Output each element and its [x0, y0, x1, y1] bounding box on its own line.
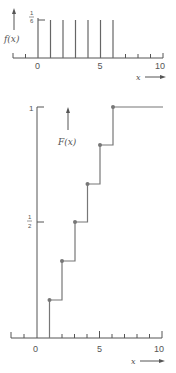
x-ticks — [11, 331, 162, 338]
ytick-half-num: 1 — [28, 214, 32, 220]
cdf-chart: 1 1 2 F(x) — [11, 104, 165, 366]
y-axis-label: f(x) — [3, 34, 20, 44]
xtick-label-0: 0 — [35, 61, 40, 71]
xtick-label-5: 5 — [98, 61, 103, 71]
ytick-label-1: 1 — [29, 104, 34, 113]
ytick-den: 6 — [30, 18, 34, 24]
xtick-label-10: 10 — [155, 61, 165, 71]
x-axis-label: x — [131, 357, 136, 366]
figure: f(x) 1 6 0 5 10 x — [0, 0, 176, 373]
y-axis-label: F(x) — [57, 137, 77, 147]
x-axis-label: x — [136, 73, 141, 82]
ytick-num: 1 — [30, 10, 34, 16]
pmf-chart: f(x) 1 6 0 5 10 x — [3, 8, 166, 82]
xtick-label-10: 10 — [154, 344, 164, 354]
arrowhead-icon — [12, 8, 16, 14]
cdf-points — [48, 105, 116, 302]
pmf-stems — [38, 18, 113, 58]
xtick-label-0: 0 — [33, 344, 38, 354]
xtick-label-5: 5 — [97, 344, 102, 354]
ytick-half-den: 2 — [28, 223, 32, 229]
